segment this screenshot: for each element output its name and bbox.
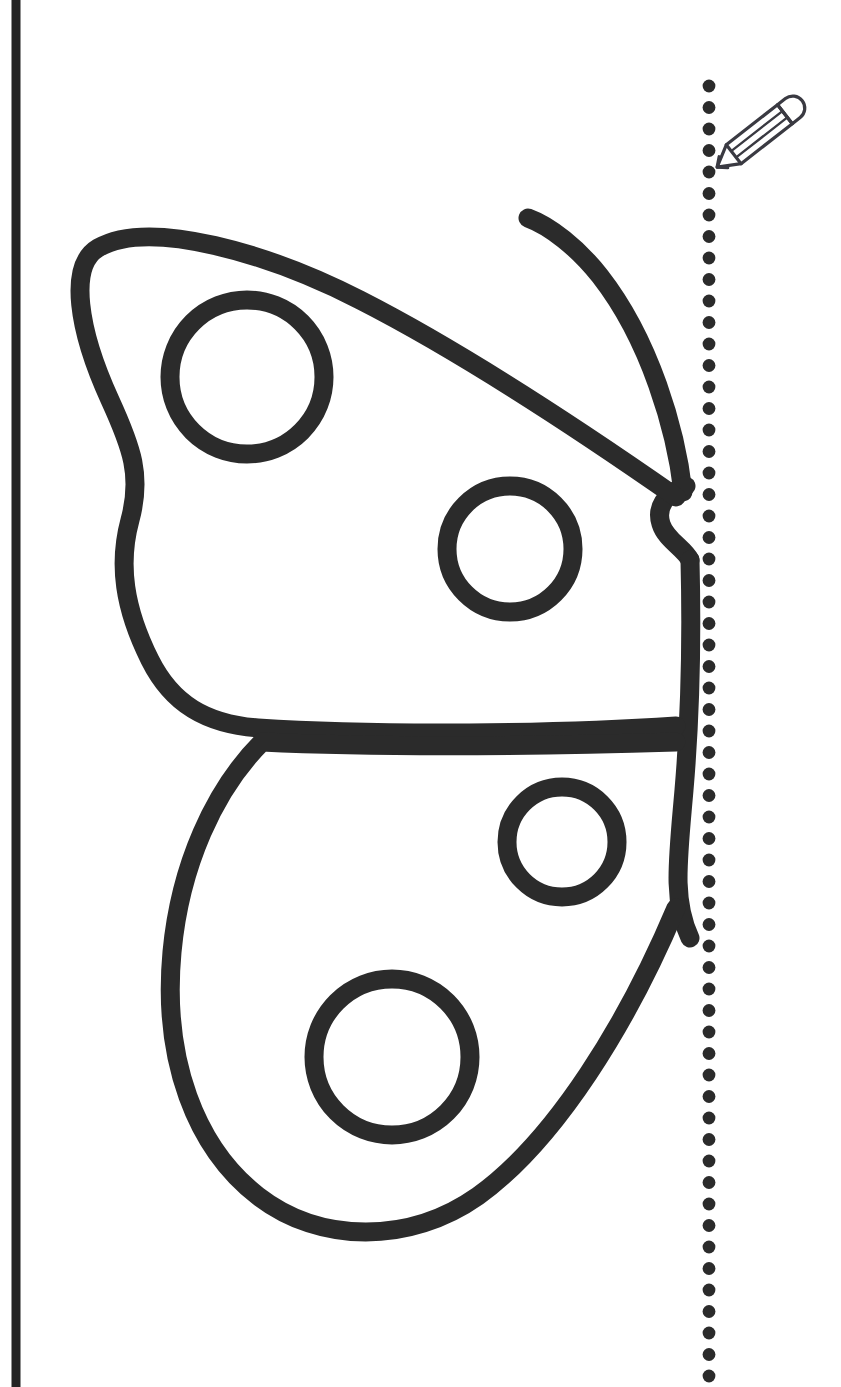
fold-line-dot	[703, 574, 716, 587]
fold-line-dot	[703, 338, 716, 351]
fold-line-dot	[703, 854, 716, 867]
fold-line-dot	[703, 1370, 716, 1383]
fold-line-dot	[703, 1026, 716, 1039]
fold-line-dot	[703, 918, 716, 931]
fold-line-dot	[703, 80, 716, 93]
fold-line-dot	[703, 875, 716, 888]
fold-line-dot	[703, 660, 716, 673]
worksheet-page: Butterfly Symmetry Drawing Worksheet	[0, 0, 841, 1387]
fold-line-dot	[703, 553, 716, 566]
fold-line-dot	[703, 983, 716, 996]
fold-line-dot	[703, 639, 716, 652]
fold-line-dot	[703, 1219, 716, 1232]
fold-line-dot	[703, 402, 716, 415]
fold-line-dot	[703, 617, 716, 630]
fold-line-dot	[703, 1284, 716, 1297]
fold-line-dot	[703, 510, 716, 523]
fold-line-dot	[703, 897, 716, 910]
fold-line-dot	[703, 1155, 716, 1168]
fold-line-dot	[703, 359, 716, 372]
fold-line-dot	[703, 940, 716, 953]
fold-line-dot	[703, 101, 716, 114]
fold-line-dot	[703, 768, 716, 781]
fold-line-dot	[703, 1241, 716, 1254]
fold-line-dot	[703, 811, 716, 824]
fold-line-dot	[703, 596, 716, 609]
fold-line-dot	[703, 832, 716, 845]
vertical-dotted-fold-line	[703, 80, 716, 1383]
fold-line-dot	[703, 209, 716, 222]
fold-line-dot	[703, 381, 716, 394]
fold-line-dot	[703, 1090, 716, 1103]
fold-line-dot	[703, 230, 716, 243]
fold-line-dot	[703, 295, 716, 308]
fold-line-dot	[703, 1348, 716, 1361]
fold-line-dot	[703, 1112, 716, 1125]
fold-line-dot	[703, 682, 716, 695]
fold-line-dot	[703, 961, 716, 974]
fold-line-dot	[703, 1069, 716, 1082]
fold-line-dot	[703, 1327, 716, 1340]
fold-line-dot	[703, 1004, 716, 1017]
worksheet-canvas	[0, 0, 841, 1387]
fold-line-dot	[703, 1176, 716, 1189]
fold-line-dot	[703, 187, 716, 200]
fold-line-dot	[703, 166, 716, 179]
fold-line-dot	[703, 123, 716, 136]
page-background	[0, 0, 841, 1387]
fold-line-dot	[703, 1262, 716, 1275]
fold-line-dot	[703, 316, 716, 329]
fold-line-dot	[703, 1305, 716, 1318]
fold-line-dot	[703, 144, 716, 157]
fold-line-dot	[703, 531, 716, 544]
fold-line-dot	[703, 1133, 716, 1146]
fold-line-dot	[703, 467, 716, 480]
fold-line-dot	[703, 725, 716, 738]
fold-line-dot	[703, 1047, 716, 1060]
fold-line-dot	[703, 1198, 716, 1211]
fold-line-dot	[703, 273, 716, 286]
fold-line-dot	[703, 445, 716, 458]
fold-line-dot	[703, 789, 716, 802]
fold-line-dot	[703, 252, 716, 265]
fold-line-dot	[703, 746, 716, 759]
fold-line-dot	[703, 488, 716, 501]
fold-line-dot	[703, 424, 716, 437]
fold-line-dot	[703, 703, 716, 716]
